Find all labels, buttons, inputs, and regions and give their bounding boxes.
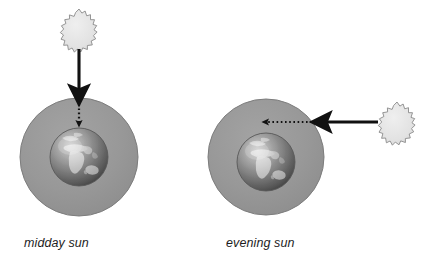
panel-midday	[20, 9, 138, 216]
sun-icon-midday	[60, 9, 97, 52]
earth-globe-midday	[50, 128, 108, 186]
solar-radiation-diagram: midday sun evening sun	[0, 0, 435, 271]
caption-evening-sun: evening sun	[226, 236, 295, 250]
sun-icon-evening	[378, 102, 415, 145]
caption-midday-sun: midday sun	[24, 236, 89, 250]
diagram-canvas	[0, 0, 435, 271]
earth-globe-evening	[237, 133, 295, 191]
panel-evening	[208, 99, 415, 215]
